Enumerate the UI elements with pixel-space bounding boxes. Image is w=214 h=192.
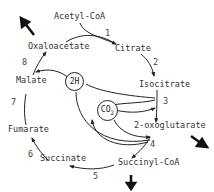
- step-number-7: 7: [11, 98, 16, 107]
- arrow-co2-oxoglutarate: [115, 108, 155, 112]
- label-malate: Malate: [16, 76, 47, 85]
- step-number-3: 3: [163, 97, 168, 106]
- label-succinate: Succinate: [40, 154, 86, 163]
- label-succinyl-coa: Succinyl-CoA: [118, 158, 179, 167]
- arrow-step-8: [33, 52, 46, 75]
- cofactor-co2-label: CO2: [101, 105, 114, 116]
- step-number-5: 5: [93, 172, 98, 181]
- step-number-4: 4: [150, 140, 155, 149]
- label-oxaloacetate: Oxaloacetate: [28, 42, 89, 51]
- step-number-8: 8: [22, 58, 27, 67]
- step-number-2: 2: [153, 58, 158, 67]
- label-isocitrate: Isocitrate: [139, 80, 190, 89]
- arrow-step-5: [70, 165, 114, 169]
- label-citrate: Citrate: [115, 44, 151, 53]
- cofactor-2h-circle: 2H: [65, 72, 84, 91]
- cofactor-co2-circle: CO2: [97, 100, 118, 121]
- label-acetyl-coa: Acetyl-CoA: [54, 12, 105, 21]
- step-number-6: 6: [28, 150, 33, 159]
- cofactor-2h-label: 2H: [70, 77, 80, 86]
- step-number-1: 1: [105, 29, 110, 38]
- arrow-step-3: [156, 90, 157, 122]
- label-oxoglutarate: 2-oxoglutarate: [134, 121, 206, 130]
- label-fumarate: Fumarate: [8, 125, 49, 134]
- arrow-step-7: [25, 94, 27, 125]
